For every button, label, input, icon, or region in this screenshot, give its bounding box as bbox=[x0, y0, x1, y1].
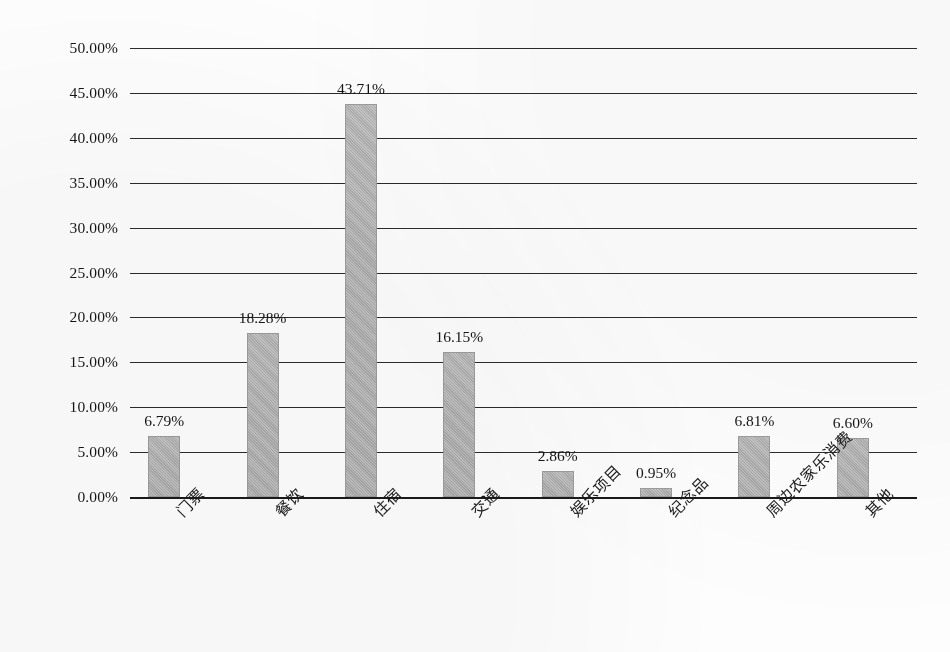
bar-value-label: 6.81% bbox=[734, 412, 774, 430]
bar-group: 6.81% bbox=[738, 48, 770, 497]
bar-group: 16.15% bbox=[443, 48, 475, 497]
bar-value-label: 43.71% bbox=[337, 80, 385, 98]
bar-value-label: 2.86% bbox=[538, 447, 578, 465]
plot-area: 6.79%18.28%43.71%16.15%2.86%0.95%6.81%6.… bbox=[130, 48, 917, 497]
y-tick-label: 0.00% bbox=[22, 488, 118, 506]
bar-value-label: 18.28% bbox=[239, 309, 287, 327]
y-tick-label: 20.00% bbox=[22, 308, 118, 326]
bar[interactable] bbox=[345, 104, 377, 497]
axis-baseline bbox=[130, 497, 917, 499]
bar-chart: 50.00%45.00%40.00%35.00%30.00%25.00%20.0… bbox=[0, 0, 950, 652]
bar-group: 18.28% bbox=[247, 48, 279, 497]
bar[interactable] bbox=[738, 436, 770, 497]
y-tick-label: 15.00% bbox=[22, 353, 118, 371]
bar-group: 2.86% bbox=[542, 48, 574, 497]
bar[interactable] bbox=[640, 488, 672, 497]
bar[interactable] bbox=[247, 333, 279, 497]
y-tick-label: 45.00% bbox=[22, 84, 118, 102]
y-tick-label: 50.00% bbox=[22, 39, 118, 57]
y-tick-label: 10.00% bbox=[22, 398, 118, 416]
bar[interactable] bbox=[443, 352, 475, 497]
y-tick-label: 40.00% bbox=[22, 129, 118, 147]
y-tick-label: 35.00% bbox=[22, 174, 118, 192]
bar-group: 0.95% bbox=[640, 48, 672, 497]
y-tick-label: 30.00% bbox=[22, 219, 118, 237]
bar-value-label: 6.79% bbox=[144, 412, 184, 430]
y-tick-label: 5.00% bbox=[22, 443, 118, 461]
bar-group: 6.79% bbox=[148, 48, 180, 497]
y-tick-label: 25.00% bbox=[22, 264, 118, 282]
bar-value-label: 16.15% bbox=[435, 328, 483, 346]
bar[interactable] bbox=[148, 436, 180, 497]
bar-value-label: 0.95% bbox=[636, 464, 676, 482]
bar[interactable] bbox=[542, 471, 574, 497]
bar-group: 43.71% bbox=[345, 48, 377, 497]
y-axis-tick-labels: 50.00%45.00%40.00%35.00%30.00%25.00%20.0… bbox=[14, 48, 118, 497]
